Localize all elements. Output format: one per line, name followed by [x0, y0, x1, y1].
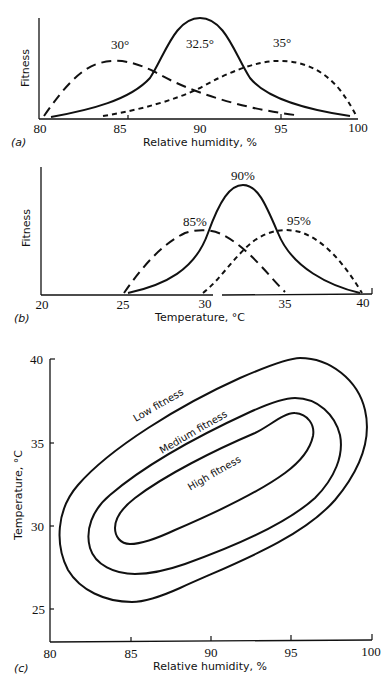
x-tick: 100 [361, 644, 381, 659]
y-tick: 35 [31, 436, 44, 451]
x-tick: 100 [348, 120, 368, 135]
panel-label: (b) [14, 312, 30, 325]
y-tick: 40 [30, 352, 43, 367]
y-axis-label: Fitness [20, 209, 33, 247]
x-tick: 20 [36, 297, 49, 312]
panel-b: 85% 90% 95% Fitness 20 25 30 35 40 Tempe… [14, 167, 372, 325]
panel-label: (a) [11, 136, 26, 149]
x-tick: 95 [275, 121, 288, 136]
annotation-90pct: 90% [231, 168, 255, 183]
x-axis-label: Relative humidity, % [153, 660, 267, 673]
annotation-35deg: 35° [273, 35, 291, 50]
region-label-high: High fitness [186, 453, 243, 492]
curve-30deg [44, 61, 295, 116]
region-label-low: Low fitness [131, 386, 185, 424]
x-axis-label: Temperature, °C [154, 311, 245, 324]
x-tick: 30 [199, 296, 212, 311]
annotation-30deg: 30° [111, 37, 129, 52]
y-tick: 30 [31, 519, 44, 534]
x-tick: 90 [205, 645, 218, 660]
x-tick: 85 [125, 646, 138, 661]
curve-35deg [103, 61, 357, 117]
annotation-85pct: 85% [183, 214, 207, 229]
y-tick: 25 [32, 602, 45, 617]
panel-c: Low fitness Medium fitness High fitness … [12, 352, 381, 675]
x-axis-label: Relative humidity, % [143, 136, 257, 149]
x-tick: 80 [44, 646, 57, 661]
figure: 30° 32.5° 35° Fitness 80 85 90 95 100 Re… [0, 0, 392, 686]
x-tick: 40 [357, 295, 370, 310]
x-tick: 80 [34, 121, 47, 136]
x-tick: 35 [279, 296, 292, 311]
contour-low [60, 358, 367, 602]
curve-90pct [128, 185, 360, 293]
curve-32-5deg [51, 18, 350, 117]
annotation-95pct: 95% [287, 213, 311, 228]
x-tick: 25 [117, 297, 130, 312]
panel-label: (c) [14, 662, 29, 675]
panel-a: 30° 32.5° 35° Fitness 80 85 90 95 100 Re… [11, 18, 368, 149]
x-tick: 85 [114, 121, 127, 136]
annotation-32-5deg: 32.5° [186, 36, 214, 51]
x-tick: 90 [194, 121, 207, 136]
curve-95pct [203, 230, 362, 293]
x-tick: 95 [285, 645, 298, 660]
y-axis-label: Fitness [19, 49, 32, 87]
y-axis-label: Temperature, °C [12, 450, 25, 541]
